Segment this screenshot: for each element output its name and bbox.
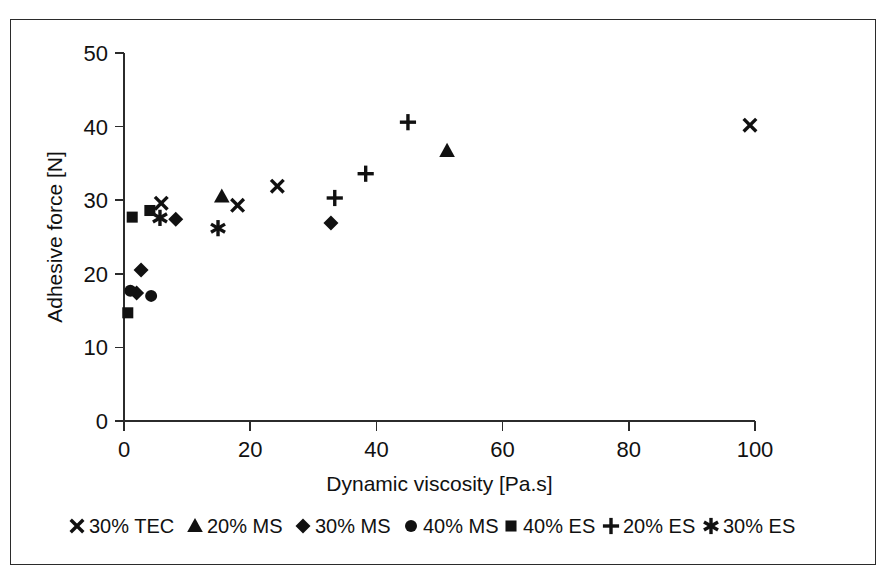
data-point (155, 197, 168, 210)
x-tick-label-20: 20 (238, 437, 262, 462)
x-tick-label-60: 60 (490, 437, 514, 462)
legend-item-20-es: 20% ES (603, 515, 695, 537)
scatter-chart: 01020304050020406080100 Dynamic viscosit… (0, 0, 888, 576)
data-point (323, 216, 338, 231)
legend-label: 20% ES (623, 515, 695, 537)
data-point (134, 263, 149, 278)
y-tick-label-0: 0 (96, 409, 108, 434)
data-point (744, 119, 757, 132)
x-tick-label-100: 100 (737, 437, 774, 462)
legend-marker-plus (603, 518, 619, 534)
x-tick-label-0: 0 (118, 437, 130, 462)
y-tick-label-10: 10 (84, 335, 108, 360)
axes-group (115, 53, 755, 431)
series-30-tec (155, 119, 756, 212)
y-axis-title: Adhesive force [N] (43, 151, 66, 323)
data-point (271, 180, 284, 193)
chart-legend: 30% TEC20% MS30% MS40% MS40% ES20% ES30%… (71, 515, 796, 537)
data-point (358, 166, 374, 182)
plot-area: 01020304050020406080100 Dynamic viscosit… (0, 0, 888, 576)
x-axis-title: Dynamic viscosity [Pa.s] (326, 472, 552, 495)
legend-item-30-tec: 30% TEC (71, 515, 175, 537)
tick-labels-group: 01020304050020406080100 (84, 41, 774, 462)
legend-marker-square (505, 520, 516, 531)
y-tick-label-30: 30 (84, 188, 108, 213)
series-20-es (327, 114, 416, 206)
x-tick-label-80: 80 (617, 437, 641, 462)
legend-item-40-ms: 40% MS (405, 515, 499, 537)
legend-label: 40% MS (423, 515, 499, 537)
legend-item-20-ms: 20% MS (187, 515, 282, 537)
legend-item-30-ms: 30% MS (296, 515, 391, 537)
legend-label: 40% ES (523, 515, 595, 537)
chart-figure: 01020304050020406080100 Dynamic viscosit… (0, 0, 888, 576)
y-tick-label-50: 50 (84, 41, 108, 66)
y-tick-label-20: 20 (84, 262, 108, 287)
data-point (127, 212, 138, 223)
legend-marker-cross-x (71, 520, 84, 533)
legend-label: 30% TEC (89, 515, 174, 537)
y-tick-label-40: 40 (84, 115, 108, 140)
legend-marker-diamond (296, 519, 311, 534)
legend-marker-triangle (187, 518, 203, 532)
data-point (439, 143, 455, 157)
legend-marker-asterisk (704, 518, 718, 534)
series-30-es (153, 210, 225, 237)
data-point (211, 220, 225, 236)
data-point (124, 285, 136, 297)
data-point (145, 290, 157, 302)
data-point (168, 212, 183, 227)
legend-label: 20% MS (207, 515, 283, 537)
legend-label: 30% MS (315, 515, 391, 537)
data-point (122, 307, 133, 318)
data-points-group (122, 114, 756, 318)
legend-label: 30% ES (723, 515, 795, 537)
x-tick-label-40: 40 (364, 437, 388, 462)
legend-item-30-es: 30% ES (704, 515, 795, 537)
legend-marker-circle (405, 520, 417, 532)
data-point (400, 114, 416, 130)
data-point (214, 188, 230, 202)
legend-item-40-es: 40% ES (505, 515, 595, 537)
data-point (231, 199, 244, 212)
data-point (327, 190, 343, 206)
